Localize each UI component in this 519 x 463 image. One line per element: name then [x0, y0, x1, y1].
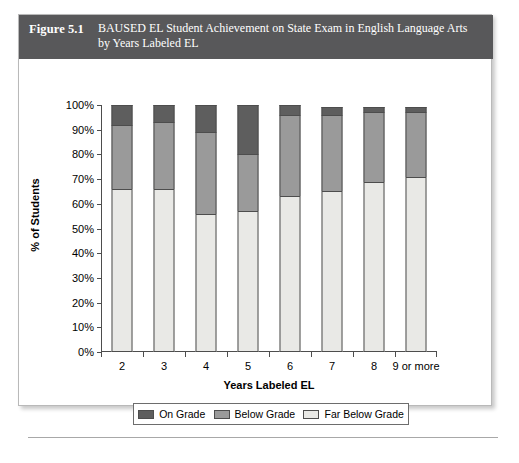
- figure-title-banner: Figure 5.1 BAUSED EL Student Achievement…: [19, 15, 493, 59]
- x-tick-mark: [269, 352, 270, 357]
- bar-segment[interactable]: [322, 115, 343, 192]
- legend-swatch: [214, 410, 230, 419]
- stacked-bar[interactable]: [364, 105, 385, 352]
- bar-segment[interactable]: [196, 132, 217, 214]
- y-tick-label: 60%: [72, 198, 101, 210]
- stacked-bar[interactable]: [154, 105, 175, 352]
- stacked-bar[interactable]: [280, 105, 301, 352]
- x-tick-mark: [101, 352, 102, 357]
- bar-segment[interactable]: [322, 107, 343, 114]
- x-tick-mark: [311, 352, 312, 357]
- chart-axes: 0%10%20%30%40%50%60%70%80%90%100% 234567…: [101, 105, 437, 352]
- legend-label: Far Below Grade: [324, 408, 403, 420]
- x-axis-title: Years Labeled EL: [101, 379, 437, 391]
- stacked-bar[interactable]: [196, 105, 217, 352]
- y-tick-label: 40%: [72, 247, 101, 259]
- bar-segment[interactable]: [154, 122, 175, 189]
- bar-segment[interactable]: [364, 182, 385, 352]
- x-tick-label: 7: [329, 360, 335, 372]
- bar-segment[interactable]: [406, 177, 427, 352]
- x-tick-label: 6: [287, 360, 293, 372]
- y-tick-label: 10%: [72, 321, 101, 333]
- bar-category[interactable]: 2: [101, 105, 143, 352]
- bar-segment[interactable]: [196, 214, 217, 352]
- legend-item[interactable]: Below Grade: [214, 408, 296, 420]
- legend-swatch: [138, 410, 154, 419]
- y-tick-label: 30%: [72, 272, 101, 284]
- y-tick-label: 70%: [72, 173, 101, 185]
- legend-swatch: [303, 410, 319, 419]
- bar-category[interactable]: 7: [311, 105, 353, 352]
- figure-caption: BAUSED EL Student Achievement on State E…: [98, 21, 470, 51]
- x-tick-label: 9 or more: [392, 360, 439, 372]
- bar-segment[interactable]: [238, 211, 259, 352]
- bar-segment[interactable]: [280, 105, 301, 115]
- x-tick-mark: [143, 352, 144, 357]
- bar-category[interactable]: 9 or more: [395, 105, 437, 352]
- bar-segment[interactable]: [112, 105, 133, 125]
- y-tick-label: 90%: [72, 124, 101, 136]
- bar-category[interactable]: 3: [143, 105, 185, 352]
- figure-number: Figure 5.1: [29, 21, 84, 37]
- y-tick-label: 20%: [72, 297, 101, 309]
- bar-segment[interactable]: [406, 112, 427, 176]
- bar-segment[interactable]: [364, 112, 385, 181]
- bar-segment[interactable]: [238, 154, 259, 211]
- bar-segment[interactable]: [322, 191, 343, 352]
- bar-category[interactable]: 6: [269, 105, 311, 352]
- x-tick-mark: [436, 352, 437, 357]
- figure-page: Figure 5.1 BAUSED EL Student Achievement…: [0, 0, 519, 463]
- y-axis-title: % of Students: [29, 155, 41, 275]
- bar-segment[interactable]: [280, 115, 301, 197]
- bar-category[interactable]: 4: [185, 105, 227, 352]
- bar-segment[interactable]: [112, 125, 133, 189]
- x-tick-label: 3: [161, 360, 167, 372]
- stacked-bar[interactable]: [406, 105, 427, 352]
- stacked-bar[interactable]: [238, 105, 259, 352]
- y-tick-label: 80%: [72, 148, 101, 160]
- legend-item[interactable]: Far Below Grade: [303, 408, 403, 420]
- bar-category[interactable]: 5: [227, 105, 269, 352]
- y-tick-label: 50%: [72, 223, 101, 235]
- bar-segment[interactable]: [154, 105, 175, 122]
- x-tick-mark: [227, 352, 228, 357]
- bar-segment[interactable]: [154, 189, 175, 352]
- x-tick-label: 5: [245, 360, 251, 372]
- bar-segment[interactable]: [280, 196, 301, 352]
- x-tick-mark: [395, 352, 396, 357]
- x-tick-label: 4: [203, 360, 209, 372]
- bar-segment[interactable]: [238, 105, 259, 154]
- figure-card: Figure 5.1 BAUSED EL Student Achievement…: [18, 14, 492, 406]
- x-tick-label: 2: [119, 360, 125, 372]
- legend-label: On Grade: [159, 408, 205, 420]
- y-tick-label: 0%: [78, 346, 101, 358]
- chart-legend: On GradeBelow GradeFar Below Grade: [133, 403, 409, 425]
- bar-segment[interactable]: [112, 189, 133, 352]
- bar-segment[interactable]: [196, 105, 217, 132]
- y-tick-label: 100%: [66, 99, 101, 111]
- stacked-bar[interactable]: [322, 105, 343, 352]
- x-tick-mark: [353, 352, 354, 357]
- legend-label: Below Grade: [235, 408, 296, 420]
- chart-plot-area: % of Students 0%10%20%30%40%50%60%70%80%…: [19, 59, 493, 407]
- x-tick-mark: [185, 352, 186, 357]
- stacked-bar[interactable]: [112, 105, 133, 352]
- legend-item[interactable]: On Grade: [138, 408, 205, 420]
- bar-category[interactable]: 8: [353, 105, 395, 352]
- x-tick-label: 8: [371, 360, 377, 372]
- bar-group: 23456789 or more: [101, 105, 437, 352]
- page-divider-rule: [28, 437, 498, 438]
